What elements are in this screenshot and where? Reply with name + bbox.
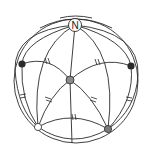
bottom-right-point — [104, 125, 111, 132]
left-point — [18, 60, 25, 67]
sphere-outline — [14, 19, 138, 143]
meridians — [15, 16, 138, 143]
center-point — [66, 76, 74, 84]
north-pole-label: N — [71, 20, 78, 31]
bottom-left-point — [34, 123, 41, 130]
north-pole: N — [69, 19, 82, 32]
sphere-diagram: N — [0, 0, 146, 162]
right-point — [127, 62, 134, 69]
